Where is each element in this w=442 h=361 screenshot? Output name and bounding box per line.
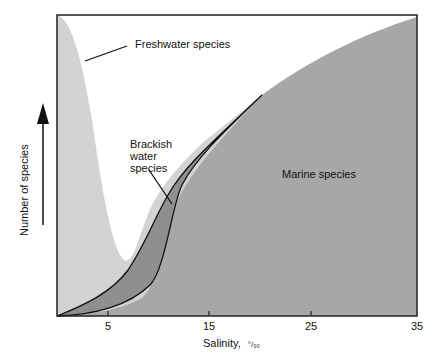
y-arrow-icon xyxy=(37,103,49,124)
brackish-label-line3: species xyxy=(130,162,167,174)
permille-unit: °/₀₀ xyxy=(248,340,260,349)
y-axis-label: Number of species xyxy=(18,144,30,236)
x-tick-15: 15 xyxy=(203,320,215,332)
x-tick-5: 5 xyxy=(105,320,111,332)
freshwater-label: Freshwater species xyxy=(135,38,230,50)
brackish-label-line1: Brackish xyxy=(130,138,172,150)
x-axis-label-text: Salinity, xyxy=(203,337,241,349)
x-axis-label: Salinity, °/₀₀ xyxy=(203,337,260,351)
marine-label: Marine species xyxy=(282,168,356,180)
freshwater-leader xyxy=(85,46,127,61)
x-tick-35: 35 xyxy=(411,320,423,332)
x-tick-25: 25 xyxy=(305,320,317,332)
brackish-label-line2: water xyxy=(130,150,157,162)
species-salinity-diagram xyxy=(0,0,442,361)
